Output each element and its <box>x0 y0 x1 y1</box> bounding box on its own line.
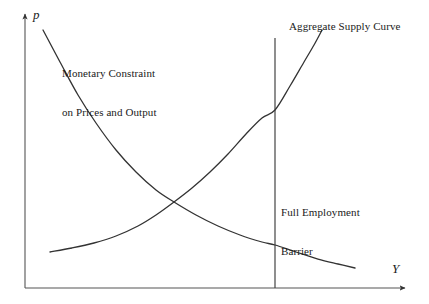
full-employment-barrier-label-line2: Barrier <box>281 245 360 258</box>
x-axis-label: Y <box>392 262 399 275</box>
full-employment-barrier-label: Full Employment Barrier <box>281 180 360 284</box>
monetary-constraint-label-line2: on Prices and Output <box>62 106 157 119</box>
y-axis-label: p <box>33 8 40 21</box>
monetary-constraint-label: Monetary Constraint on Prices and Output <box>62 41 157 145</box>
economics-diagram: p Y Monetary Constraint on Prices and Ou… <box>0 0 429 304</box>
monetary-constraint-label-line1: Monetary Constraint <box>62 67 157 80</box>
aggregate-supply-label: Aggregate Supply Curve <box>289 20 401 33</box>
full-employment-barrier-label-line1: Full Employment <box>281 206 360 219</box>
